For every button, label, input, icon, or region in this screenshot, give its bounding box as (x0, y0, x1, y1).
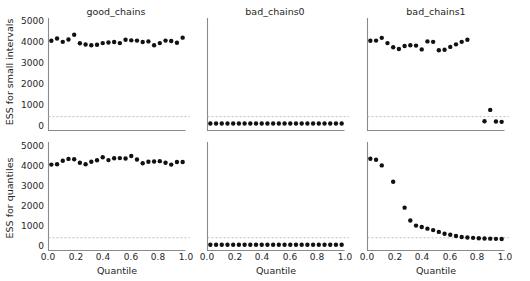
ytick-top-3000: 3000 (21, 58, 44, 68)
data-point (214, 121, 218, 125)
data-point (437, 48, 441, 52)
panel-title-bad-chains1: bad_chains1 (406, 6, 465, 17)
data-point (328, 243, 332, 247)
data-point (380, 163, 384, 167)
data-point (163, 38, 167, 42)
xtick-c1-3: 0.6 (283, 252, 298, 262)
data-point (225, 121, 229, 125)
data-point (374, 38, 378, 42)
data-point (220, 243, 224, 247)
data-point (55, 36, 59, 40)
data-point (459, 235, 463, 239)
data-point (237, 243, 241, 247)
data-point (299, 121, 303, 125)
xtick-c0-4: 0.8 (151, 252, 166, 262)
data-point (180, 35, 184, 39)
xtick-c1-5: 1.0 (338, 252, 353, 262)
data-point (311, 243, 315, 247)
data-point (477, 236, 481, 240)
xtick-c2-3: 0.6 (443, 252, 458, 262)
data-point (322, 121, 326, 125)
data-point (95, 158, 99, 162)
data-point (118, 41, 122, 45)
data-point (334, 243, 338, 247)
data-point (72, 33, 76, 37)
data-point (135, 157, 139, 161)
ytick-bottom-0: 0 (38, 241, 44, 251)
data-point (305, 243, 309, 247)
data-point (465, 235, 469, 239)
xtick-c0-1: 0.2 (69, 252, 83, 262)
data-point (277, 121, 281, 125)
data-point (397, 47, 401, 51)
data-point (101, 155, 105, 159)
data-point (242, 121, 246, 125)
data-point (265, 121, 269, 125)
data-point (294, 243, 298, 247)
data-point (317, 243, 321, 247)
data-point (146, 39, 150, 43)
data-point (294, 121, 298, 125)
data-point (414, 223, 418, 227)
data-point (112, 156, 116, 160)
data-point (146, 160, 150, 164)
data-point (66, 37, 70, 41)
data-point (220, 121, 224, 125)
data-point (271, 243, 275, 247)
data-point (299, 243, 303, 247)
data-point (420, 47, 424, 51)
xtick-c2-5: 1.0 (498, 252, 513, 262)
scatter-points-bad-chains0-small-intervals (208, 121, 344, 125)
data-point (175, 40, 179, 44)
xtick-c2-2: 0.4 (415, 252, 430, 262)
data-point (180, 160, 184, 164)
data-point (288, 121, 292, 125)
scatter-points-bad-chains1-small-intervals (368, 36, 504, 124)
data-point (499, 120, 503, 124)
data-point (231, 121, 235, 125)
data-point (414, 43, 418, 47)
data-point (123, 156, 127, 160)
ytick-top-4000: 4000 (21, 37, 44, 47)
xtick-c0-0: 0.0 (41, 252, 56, 262)
scatter-points-good-chains-quantiles (49, 154, 185, 167)
data-point (459, 40, 463, 44)
data-point (140, 161, 144, 165)
data-point (242, 243, 246, 247)
data-point (248, 121, 252, 125)
xtick-c2-0: 0.0 (360, 252, 375, 262)
scatter-points-bad-chains0-quantiles (208, 243, 344, 247)
data-point (129, 154, 133, 158)
data-point (106, 158, 110, 162)
panel-axes (49, 18, 505, 251)
y-axis-label-bottom: ESS for quantiles (4, 158, 15, 239)
data-point (488, 108, 492, 112)
data-point (123, 38, 127, 42)
data-point (482, 236, 486, 240)
data-point (305, 121, 309, 125)
data-point (61, 40, 65, 44)
data-point (494, 237, 498, 241)
data-point (431, 40, 435, 44)
data-point (152, 159, 156, 163)
ytick-top-5000: 5000 (21, 16, 44, 26)
data-point (265, 243, 269, 247)
data-point (282, 121, 286, 125)
data-point (374, 158, 378, 162)
data-point (482, 119, 486, 123)
ytick-bottom-2000: 2000 (21, 201, 44, 211)
data-point (385, 41, 389, 45)
data-point (95, 43, 99, 47)
data-point (169, 162, 173, 166)
data-point (89, 43, 93, 47)
data-point (248, 243, 252, 247)
data-point (334, 121, 338, 125)
data-point (112, 40, 116, 44)
data-point (66, 157, 70, 161)
scatter-points-bad-chains1-quantiles (368, 156, 504, 241)
data-point (158, 41, 162, 45)
panel-title-good-chains: good_chains (86, 6, 145, 17)
data-point (49, 162, 53, 166)
data-point (322, 243, 326, 247)
ytick-top-2000: 2000 (21, 79, 44, 89)
